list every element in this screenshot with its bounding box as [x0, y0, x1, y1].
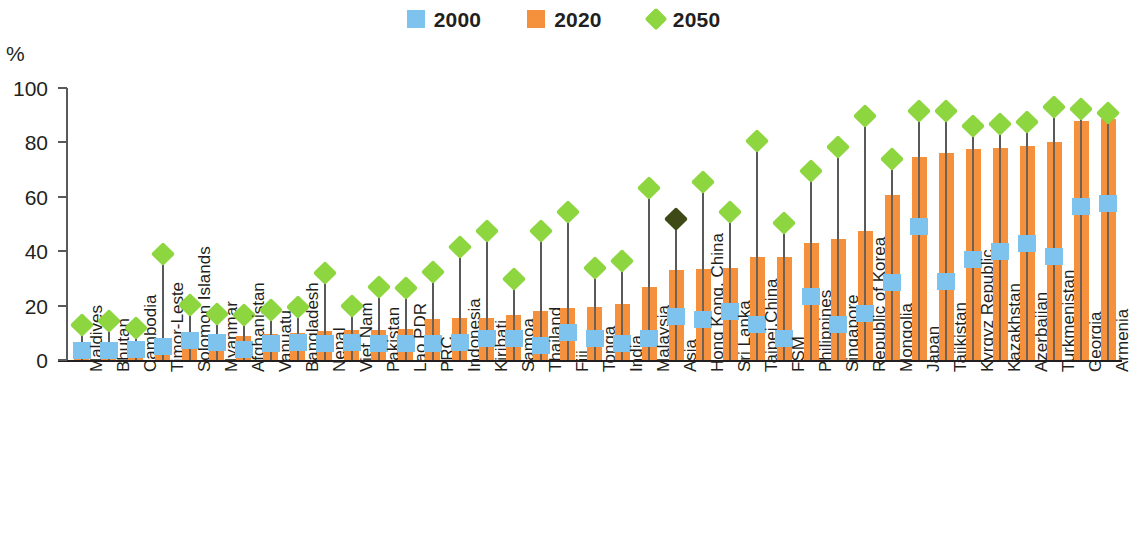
marker-2000: [991, 243, 1009, 260]
chart-column: [554, 0, 581, 557]
chart-column: [68, 0, 95, 557]
marker-2050: [718, 200, 742, 224]
stem-line-overlay: [1026, 146, 1028, 360]
stem-line-overlay: [1080, 121, 1082, 360]
marker-2050: [367, 275, 391, 299]
marker-2050: [529, 219, 553, 243]
chart-column: [338, 0, 365, 557]
marker-2050: [394, 276, 418, 300]
chart-column: [609, 0, 636, 557]
y-axis-tick: [58, 250, 67, 252]
marker-2000: [559, 324, 577, 341]
marker-2050: [151, 242, 175, 266]
chart-column: [311, 0, 338, 557]
marker-2050: [907, 99, 931, 123]
marker-2050: [772, 211, 796, 235]
y-axis-tick-label: 40: [0, 241, 48, 262]
chart-column: [717, 0, 744, 557]
marker-2050: [1042, 95, 1066, 119]
marker-2050: [556, 200, 580, 224]
chart-column: [1095, 0, 1122, 557]
chart-column: [906, 0, 933, 557]
chart-column: [879, 0, 906, 557]
chart-column: [446, 0, 473, 557]
chart-column: [284, 0, 311, 557]
marker-2050: [1069, 97, 1093, 121]
marker-2050: [1015, 110, 1039, 134]
y-axis-tick: [58, 87, 67, 89]
chart-column: [1068, 0, 1095, 557]
marker-2050: [826, 135, 850, 159]
y-axis-tick: [58, 141, 67, 143]
marker-2050: [502, 267, 526, 291]
chart-column: [149, 0, 176, 557]
y-axis-tick-label: 80: [0, 132, 48, 153]
y-axis-tick-label: 20: [0, 295, 48, 316]
chart-column: [419, 0, 446, 557]
stem-line-overlay: [1107, 119, 1109, 360]
stem-line-overlay: [837, 239, 839, 360]
marker-2050: [421, 260, 445, 284]
chart-column: [636, 0, 663, 557]
marker-2000: [910, 218, 928, 235]
chart-column: [771, 0, 798, 557]
marker-2000: [1045, 248, 1063, 265]
marker-2050: [745, 129, 769, 153]
y-axis-tick: [58, 305, 67, 307]
marker-2050: [583, 256, 607, 280]
y-axis-tick: [58, 196, 67, 198]
chart-column: [581, 0, 608, 557]
chart-column: [392, 0, 419, 557]
y-axis-tick: [58, 359, 67, 361]
chart-column: [203, 0, 230, 557]
chart-column: [95, 0, 122, 557]
y-axis-tick-label: 100: [0, 78, 48, 99]
y-axis-tick-label: 60: [0, 186, 48, 207]
marker-2050: [313, 261, 337, 285]
stem-line-overlay: [648, 287, 650, 360]
marker-2050: [934, 99, 958, 123]
chart-column: [230, 0, 257, 557]
marker-2050: [475, 219, 499, 243]
chart-column: [1014, 0, 1041, 557]
chart-column: [987, 0, 1014, 557]
chart-column: [365, 0, 392, 557]
x-axis-tick-label: Armenia: [1114, 309, 1131, 372]
chart-column: [122, 0, 149, 557]
marker-2000: [1099, 195, 1117, 212]
stem-line-overlay: [864, 231, 866, 360]
marker-2050: [637, 176, 661, 200]
marker-2050-highlight: [664, 207, 688, 231]
marker-2000: [667, 308, 685, 325]
chart-column: [257, 0, 284, 557]
marker-2050: [961, 114, 985, 138]
marker-2050: [853, 104, 877, 128]
marker-2050: [880, 147, 904, 171]
chart-column: [663, 0, 690, 557]
stem-line-overlay: [945, 153, 947, 360]
chart-column: [798, 0, 825, 557]
chart-column: [933, 0, 960, 557]
chart-column: [500, 0, 527, 557]
marker-2050: [610, 249, 634, 273]
marker-2050: [988, 112, 1012, 136]
marker-2050: [691, 170, 715, 194]
marker-2050: [799, 159, 823, 183]
y-axis-tick-label: 0: [0, 350, 48, 371]
marker-2000: [883, 274, 901, 291]
chart-column: [825, 0, 852, 557]
stem-line-overlay: [756, 257, 758, 360]
marker-2000: [1072, 198, 1090, 215]
marker-2000: [1018, 235, 1036, 252]
stem-line-overlay: [918, 157, 920, 360]
marker-2000: [937, 273, 955, 290]
chart-column: [527, 0, 554, 557]
chart-column: [473, 0, 500, 557]
marker-2050: [448, 235, 472, 259]
